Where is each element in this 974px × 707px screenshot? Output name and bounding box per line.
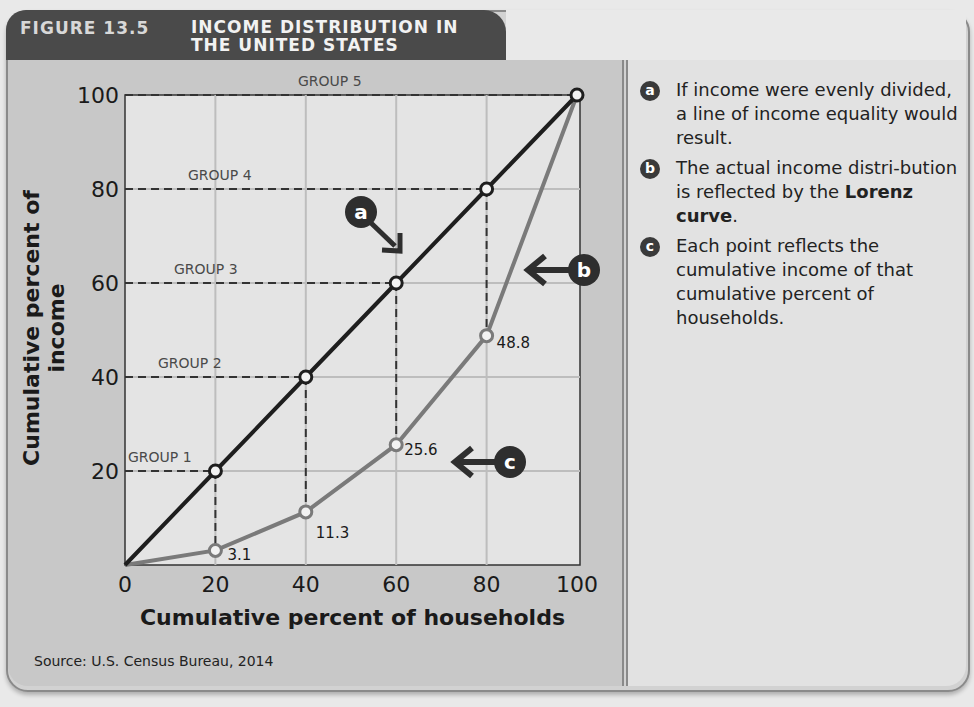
data-label: 3.1	[227, 546, 251, 564]
group-label: GROUP 3	[174, 261, 238, 277]
y-tick-label: 20	[91, 459, 119, 484]
group-label: GROUP 1	[128, 449, 192, 465]
badge-b-icon: b	[640, 159, 660, 179]
lorenz-point-marker	[300, 506, 312, 518]
group-label: GROUP 5	[298, 73, 362, 89]
note-c: c Each point reflects the cumulative inc…	[636, 234, 962, 330]
data-label: 25.6	[404, 441, 437, 459]
note-b: b The actual income distri-bution is ref…	[636, 156, 962, 228]
source-note: Source: U.S. Census Bureau, 2014	[34, 653, 273, 669]
y-tick-label: 60	[91, 271, 119, 296]
equality-point-marker	[571, 89, 583, 101]
lorenz-point-marker	[481, 330, 493, 342]
y-axis-label: Cumulative percent of income	[19, 178, 69, 478]
x-tick-label: 80	[473, 572, 501, 597]
equality-point-marker	[209, 465, 221, 477]
x-tick-label: 0	[118, 572, 132, 597]
data-label: 48.8	[497, 334, 530, 352]
x-axis-label: Cumulative percent of households	[125, 605, 580, 630]
badge-c-letter: c	[504, 450, 516, 474]
equality-point-marker	[300, 371, 312, 383]
badge-b-letter: b	[577, 258, 591, 282]
notes-list: a If income were evenly divided, a line …	[636, 78, 962, 336]
equality-point-marker	[390, 277, 402, 289]
equality-point-marker	[481, 183, 493, 195]
lorenz-point-marker	[209, 544, 221, 556]
group-label: GROUP 4	[188, 167, 252, 183]
y-tick-label: 100	[77, 83, 119, 108]
x-tick-label: 100	[556, 572, 598, 597]
lorenz-point-marker	[390, 439, 402, 451]
badge-a-icon: a	[640, 81, 660, 101]
data-label: 11.3	[316, 524, 349, 542]
x-tick-label: 20	[201, 572, 229, 597]
x-tick-label: 60	[382, 572, 410, 597]
note-c-text: Each point reflects the cumulative incom…	[676, 235, 913, 328]
note-b-text: The actual income distri-bution is refle…	[676, 157, 957, 202]
note-a-text: If income were evenly divided, a line of…	[676, 79, 958, 148]
badge-a-letter: a	[354, 200, 368, 224]
badge-c-icon: c	[640, 237, 660, 257]
note-a: a If income were evenly divided, a line …	[636, 78, 962, 150]
note-b-text-end: .	[732, 205, 738, 226]
y-tick-label: 80	[91, 177, 119, 202]
x-tick-label: 40	[292, 572, 320, 597]
group-label: GROUP 2	[158, 355, 222, 371]
y-tick-label: 40	[91, 365, 119, 390]
